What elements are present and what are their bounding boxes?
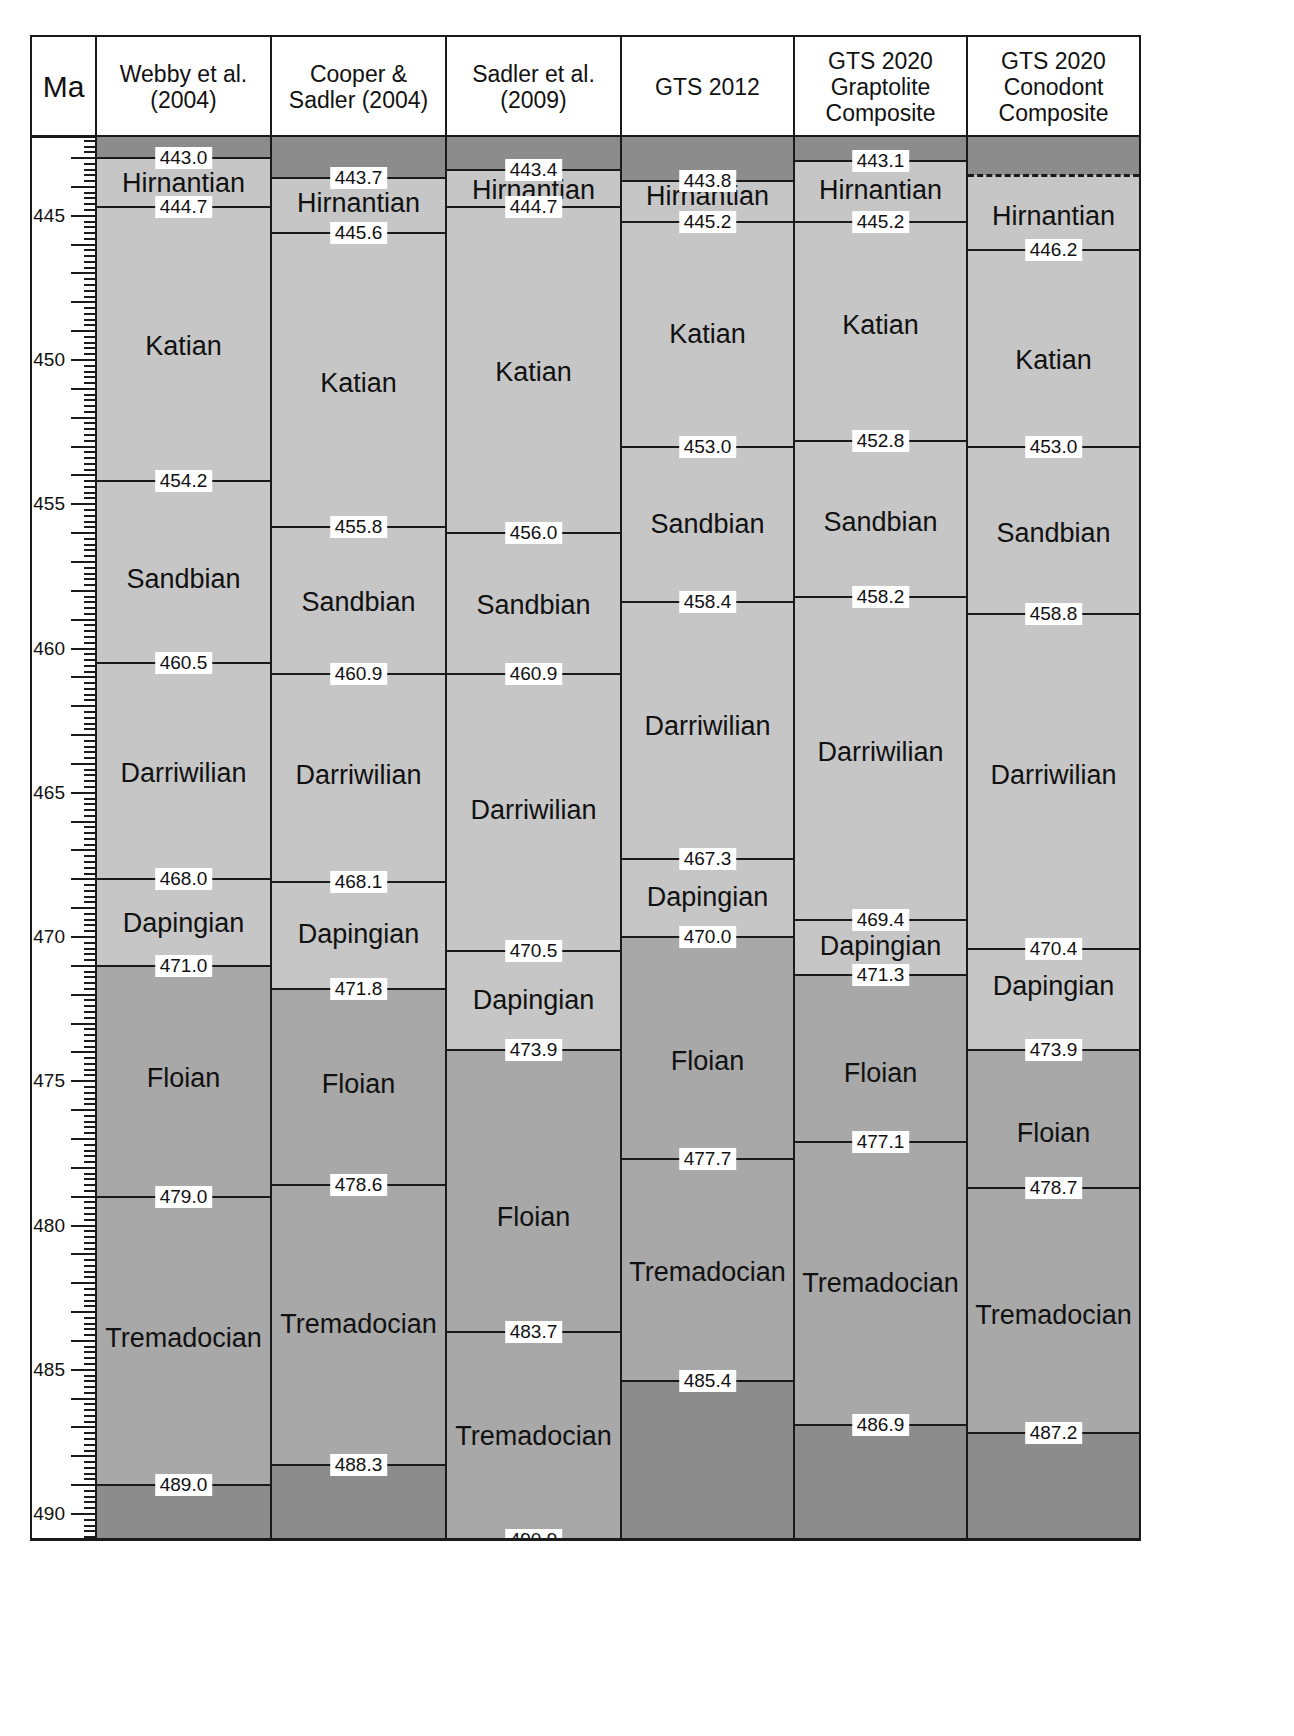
axis-tick (84, 1409, 95, 1411)
axis-tick (71, 1023, 95, 1025)
axis-tick (84, 1178, 95, 1180)
axis-tick (84, 948, 95, 950)
axis-tick (84, 469, 95, 471)
axis-tick (84, 486, 95, 488)
axis-tick (84, 434, 95, 436)
axis-tick (84, 1259, 95, 1261)
axis-tick (71, 1369, 95, 1371)
stage-label-dapingian: Dapingian (968, 971, 1139, 1001)
axis-tick (84, 1501, 95, 1503)
axis-tick (71, 648, 95, 650)
axis-tick (84, 976, 95, 978)
stage-band (97, 966, 270, 1485)
uncertain-boundary-line (968, 174, 1139, 177)
axis-tick (84, 1017, 95, 1019)
axis-tick (71, 1513, 95, 1515)
axis-tick (84, 221, 95, 223)
axis-tick (71, 676, 95, 678)
axis-tick (84, 653, 95, 655)
column-gts2020c: HirnantianKatianSandbianDarriwilianDapin… (968, 137, 1141, 1540)
axis-tick (84, 1403, 95, 1405)
stage-label-tremadocian: Tremadocian (622, 1257, 793, 1287)
axis-tick (84, 209, 95, 211)
axis-tick (84, 1092, 95, 1094)
axis-tick (84, 1438, 95, 1440)
axis-tick (84, 1150, 95, 1152)
axis-tick (84, 347, 95, 349)
axis-tick (84, 411, 95, 413)
axis-tick (71, 1311, 95, 1313)
axis-tick (84, 163, 95, 165)
boundary-age-label: 471.8 (330, 978, 388, 1000)
axis-tick (71, 186, 95, 188)
stage-label-floian: Floian (272, 1069, 445, 1099)
boundary-age-label: 445.2 (679, 211, 737, 233)
column-header-gts2020c: GTS 2020 Conodont Composite (968, 35, 1141, 137)
axis-tick (84, 1063, 95, 1065)
axis-tick (84, 1121, 95, 1123)
stage-label-dapingian: Dapingian (622, 882, 793, 912)
boundary-age-label: 478.6 (330, 1174, 388, 1196)
axis-tick (84, 440, 95, 442)
axis-tick (84, 480, 95, 482)
boundary-age-label: 454.2 (155, 470, 213, 492)
axis-tick (84, 1357, 95, 1359)
boundary-age-label: 467.3 (679, 848, 737, 870)
axis-tick (84, 1103, 95, 1105)
axis-tick-label: 470 (33, 926, 65, 948)
stage-label-katian: Katian (97, 331, 270, 361)
column-header-cooper: Cooper & Sadler (2004) (272, 35, 447, 137)
stage-band (968, 1433, 1139, 1540)
axis-tick (71, 792, 95, 794)
stage-label-hirnantian: Hirnantian (968, 201, 1139, 231)
boundary-age-label: 486.9 (852, 1414, 910, 1436)
axis-tick (84, 717, 95, 719)
axis-tick (84, 1363, 95, 1365)
boundary-age-label: 444.7 (155, 196, 213, 218)
boundary-age-label: 445.2 (852, 211, 910, 233)
axis-tick (84, 1144, 95, 1146)
axis-tick (84, 671, 95, 673)
axis-tick (84, 261, 95, 263)
stage-label-hirnantian: Hirnantian (272, 188, 445, 218)
axis-tick (84, 971, 95, 973)
axis-tick (84, 1490, 95, 1492)
axis-tick (84, 867, 95, 869)
stage-label-darriwilian: Darriwilian (447, 795, 620, 825)
axis-tick (84, 1005, 95, 1007)
stage-label-floian: Floian (97, 1063, 270, 1093)
axis-tick (84, 1057, 95, 1059)
boundary-age-label: 443.0 (155, 147, 213, 169)
axis-tick (71, 330, 95, 332)
axis-tick (84, 1046, 95, 1048)
axis-tick (84, 509, 95, 511)
stage-band (795, 1425, 966, 1540)
axis-tick (84, 1346, 95, 1348)
axis-tick (84, 1069, 95, 1071)
axis-tick (84, 982, 95, 984)
axis-tick (84, 1467, 95, 1469)
boundary-age-label: 452.8 (852, 430, 910, 452)
axis-tick (84, 180, 95, 182)
axis-tick (84, 169, 95, 171)
axis-tick (84, 601, 95, 603)
axis-tick (71, 1051, 95, 1053)
boundary-age-label: 460.9 (330, 663, 388, 685)
boundary-age-label: 468.0 (155, 868, 213, 890)
axis-tick (84, 463, 95, 465)
stage-band (622, 1381, 793, 1540)
axis-tick (84, 538, 95, 540)
axis-tick (84, 278, 95, 280)
axis-tick (84, 630, 95, 632)
axis-header-label: Ma (43, 74, 85, 100)
axis-tick (84, 803, 95, 805)
axis-tick (71, 1080, 95, 1082)
column-header-webby: Webby et al. (2004) (97, 35, 272, 137)
axis-tick (84, 573, 95, 575)
axis-tick (84, 544, 95, 546)
axis-tick (84, 826, 95, 828)
axis-tick (84, 999, 95, 1001)
stage-band (968, 137, 1139, 175)
boundary-age-label: 445.6 (330, 222, 388, 244)
boundary-age-label: 478.7 (1025, 1177, 1083, 1199)
